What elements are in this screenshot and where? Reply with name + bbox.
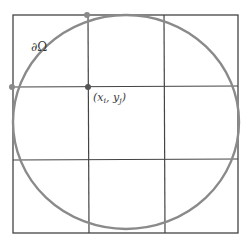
grid-line-horizontal-2 <box>13 159 238 160</box>
grid-line-horizontal-1 <box>13 86 238 87</box>
grid-line-vertical-1 <box>88 15 89 233</box>
grid-line-vertical-2 <box>164 15 165 233</box>
boundary-label: ∂Ω <box>31 40 47 54</box>
finite-difference-grid-diagram: ∂Ω (xi, yj) <box>0 0 249 245</box>
point-label: (xi, yj) <box>93 91 126 105</box>
boundary-point-left <box>9 84 15 90</box>
boundary-point-top <box>84 12 90 18</box>
grid-point-xi-yj <box>85 84 91 90</box>
